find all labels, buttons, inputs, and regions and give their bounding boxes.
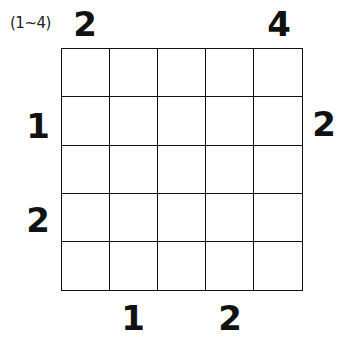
grid-cell-r3-c5[interactable]	[253, 145, 303, 195]
clue-top-5: 4	[255, 4, 303, 44]
grid-cell-r1-c4[interactable]	[205, 48, 255, 98]
grid-cell-r4-c5[interactable]	[253, 193, 303, 243]
grid-cell-r1-c1[interactable]	[61, 48, 111, 98]
grid-cell-r5-c1[interactable]	[61, 241, 111, 291]
grid-cell-r5-c2[interactable]	[109, 241, 159, 291]
clue-left-4: 2	[14, 200, 62, 240]
grid-cell-r4-c2[interactable]	[109, 193, 159, 243]
grid-cell-r2-c1[interactable]	[61, 96, 111, 146]
grid-cell-r2-c5[interactable]	[253, 96, 303, 146]
grid-cell-r5-c3[interactable]	[157, 241, 207, 291]
grid-cell-r2-c4[interactable]	[205, 96, 255, 146]
range-label: (1~4)	[10, 14, 51, 32]
grid-cell-r3-c3[interactable]	[157, 145, 207, 195]
grid-cell-r5-c4[interactable]	[205, 241, 255, 291]
clue-left-2: 1	[14, 106, 62, 146]
clue-top-1: 2	[61, 4, 109, 44]
clue-bottom-4: 2	[206, 298, 254, 338]
grid-cell-r2-c2[interactable]	[109, 96, 159, 146]
grid-cell-r5-c5[interactable]	[253, 241, 303, 291]
grid-cell-r3-c1[interactable]	[61, 145, 111, 195]
grid-cell-r4-c3[interactable]	[157, 193, 207, 243]
puzzle-grid	[61, 48, 303, 291]
grid-cell-r4-c4[interactable]	[205, 193, 255, 243]
grid-cell-r4-c1[interactable]	[61, 193, 111, 243]
grid-cell-r1-c3[interactable]	[157, 48, 207, 98]
grid-cell-r3-c2[interactable]	[109, 145, 159, 195]
grid-cell-r1-c5[interactable]	[253, 48, 303, 98]
grid-cell-r3-c4[interactable]	[205, 145, 255, 195]
grid-cell-r2-c3[interactable]	[157, 96, 207, 146]
clue-right-2: 2	[300, 104, 348, 144]
grid-cell-r1-c2[interactable]	[109, 48, 159, 98]
clue-bottom-2: 1	[109, 298, 157, 338]
